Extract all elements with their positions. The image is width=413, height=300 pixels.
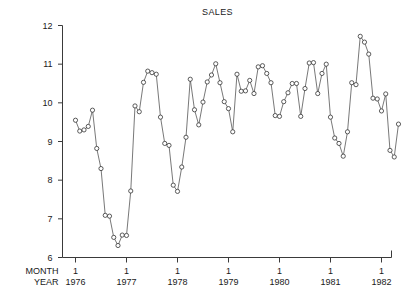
data-point-marker <box>307 61 311 65</box>
y-axis-tick-label: 10 <box>42 98 52 108</box>
data-point-marker <box>375 97 379 101</box>
data-point-marker <box>371 96 375 100</box>
data-point-marker <box>73 118 77 122</box>
data-point-marker <box>324 62 328 66</box>
data-point-marker <box>273 113 277 117</box>
data-point-marker <box>99 166 103 170</box>
data-point-marker <box>86 124 90 128</box>
data-point-marker <box>282 100 286 104</box>
data-point-marker <box>333 136 337 140</box>
x-axis-year-label: 1979 <box>218 277 238 287</box>
data-point-marker <box>367 52 371 56</box>
data-point-marker <box>154 72 158 76</box>
y-axis-tick-label: 12 <box>42 21 52 31</box>
data-point-marker <box>248 78 252 82</box>
x-axis-month-label: 1 <box>328 266 333 276</box>
data-point-marker <box>133 104 137 108</box>
y-axis-tick-label: 11 <box>43 59 52 69</box>
x-axis-year-label: 1982 <box>371 277 391 287</box>
x-axis-month-label: 1 <box>277 266 282 276</box>
y-axis: 6789101112 <box>42 21 62 263</box>
data-point-marker <box>290 81 294 85</box>
data-point-marker <box>163 141 167 145</box>
data-point-marker <box>78 129 82 133</box>
y-axis-tick-label: 9 <box>47 137 52 147</box>
data-point-marker <box>158 115 162 119</box>
y-axis-tick-label: 8 <box>47 175 52 185</box>
data-point-marker <box>286 91 290 95</box>
x-axis-month-label: 1 <box>73 266 78 276</box>
data-point-marker <box>188 77 192 81</box>
data-point-marker <box>316 91 320 95</box>
x-axis-tick-labels: 11976119771197811979119801198111982 <box>65 266 391 287</box>
data-point-marker <box>299 114 303 118</box>
x-axis-year-label: 1977 <box>116 277 136 287</box>
data-point-marker <box>205 80 209 84</box>
data-point-marker <box>184 135 188 139</box>
data-point-marker <box>252 91 256 95</box>
data-point-marker <box>239 89 243 93</box>
data-point-marker <box>214 62 218 66</box>
year-axis-label: YEAR <box>34 277 59 287</box>
data-point-marker <box>328 115 332 119</box>
data-point-marker <box>124 233 128 237</box>
data-point-marker <box>137 110 141 114</box>
data-point-marker <box>201 100 205 104</box>
data-point-marker <box>388 148 392 152</box>
data-point-marker <box>294 81 298 85</box>
sales-series <box>76 36 399 245</box>
data-point-marker <box>350 81 354 85</box>
data-point-marker <box>222 100 226 104</box>
x-axis-month-label: 1 <box>379 266 384 276</box>
data-point-marker <box>120 233 124 237</box>
x-axis-year-label: 1976 <box>65 277 85 287</box>
data-point-marker <box>303 86 307 90</box>
data-point-marker <box>167 143 171 147</box>
data-point-marker <box>384 92 388 96</box>
data-point-marker <box>243 89 247 93</box>
data-point-marker <box>311 61 315 65</box>
data-point-marker <box>392 155 396 159</box>
data-point-marker <box>175 189 179 193</box>
chart-plot-area: 6789101112 11976119771197811979119801198… <box>0 0 413 300</box>
data-point-marker <box>107 214 111 218</box>
x-axis <box>63 251 392 263</box>
data-point-marker <box>197 123 201 127</box>
data-point-marker <box>277 114 281 118</box>
data-point-marker <box>256 65 260 69</box>
data-point-marker <box>95 146 99 150</box>
chart-page: SALES 6789101112 11976119771197811979119… <box>0 0 413 300</box>
data-point-marker <box>337 141 341 145</box>
data-point-marker <box>82 128 86 132</box>
data-point-marker <box>345 130 349 134</box>
x-axis-month-label: 1 <box>124 266 129 276</box>
data-point-marker <box>129 189 133 193</box>
data-point-marker <box>90 108 94 112</box>
data-point-marker <box>150 71 154 75</box>
sales-line-chart: 6789101112 11976119771197811979119801198… <box>0 0 413 300</box>
sales-line-path <box>76 36 399 245</box>
data-point-marker <box>192 108 196 112</box>
data-point-marker <box>358 34 362 38</box>
x-axis-month-label: 1 <box>175 266 180 276</box>
data-point-marker <box>235 72 239 76</box>
data-point-marker <box>209 73 213 77</box>
data-point-marker <box>379 109 383 113</box>
y-axis-tick-label: 7 <box>47 214 52 224</box>
data-point-marker <box>354 83 358 87</box>
data-point-marker <box>146 69 150 73</box>
data-point-marker <box>226 107 230 111</box>
data-point-marker <box>171 183 175 187</box>
data-point-marker <box>112 235 116 239</box>
data-point-marker <box>231 130 235 134</box>
sales-data-markers <box>73 34 400 247</box>
data-point-marker <box>103 213 107 217</box>
data-point-marker <box>116 243 120 247</box>
x-axis-year-label: 1978 <box>167 277 187 287</box>
data-point-marker <box>269 81 273 85</box>
data-point-marker <box>141 80 145 84</box>
y-axis-tick-label: 6 <box>47 253 52 263</box>
x-axis-year-label: 1980 <box>269 277 289 287</box>
data-point-marker <box>260 64 264 68</box>
data-point-marker <box>320 71 324 75</box>
